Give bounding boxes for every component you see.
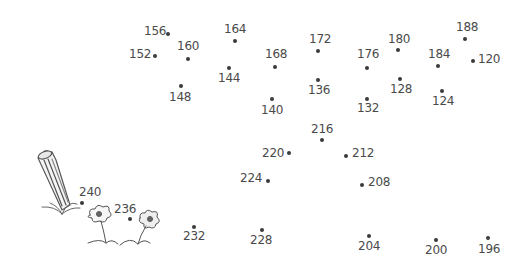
dot-label: 208 [368, 176, 390, 188]
dot-label: 240 [79, 186, 101, 198]
dot-to-dot-canvas: 1201241281321361401441481521561601641681… [0, 0, 529, 267]
dot-label: 220 [262, 147, 284, 159]
dot-point-220[interactable] [287, 151, 291, 155]
dot-label: 212 [352, 147, 374, 159]
dot-label: 188 [456, 21, 478, 33]
dot-label: 228 [250, 234, 272, 246]
dot-label: 140 [261, 104, 283, 116]
dot-label: 160 [177, 40, 199, 52]
dot-label: 204 [358, 240, 380, 252]
dot-label: 164 [224, 23, 246, 35]
dot-point-196[interactable] [486, 236, 490, 240]
dot-label: 120 [478, 53, 500, 65]
dot-point-136[interactable] [316, 78, 320, 82]
dot-point-120[interactable] [471, 59, 475, 63]
dot-point-180[interactable] [396, 48, 400, 52]
dot-label: 180 [388, 33, 410, 45]
dot-label: 136 [308, 84, 330, 96]
dot-point-208[interactable] [360, 183, 364, 187]
dot-point-164[interactable] [233, 39, 237, 43]
dot-point-184[interactable] [436, 64, 440, 68]
dot-point-160[interactable] [186, 57, 190, 61]
dot-point-152[interactable] [153, 54, 157, 58]
dot-point-212[interactable] [344, 154, 348, 158]
dot-point-176[interactable] [365, 66, 369, 70]
dot-label: 152 [129, 48, 151, 60]
dot-label: 128 [390, 83, 412, 95]
dot-label: 196 [478, 243, 500, 255]
dot-label: 224 [240, 172, 262, 184]
dot-point-236[interactable] [128, 217, 132, 221]
wooden-post-icon [37, 149, 70, 210]
dot-label: 124 [432, 95, 454, 107]
dot-point-216[interactable] [320, 138, 324, 142]
dot-point-228[interactable] [260, 228, 264, 232]
dot-label: 132 [357, 102, 379, 114]
dot-label: 144 [218, 72, 240, 84]
post-and-flowers-sketch [0, 0, 529, 267]
dot-label: 156 [144, 25, 166, 37]
dot-label: 168 [265, 48, 287, 60]
dot-label: 236 [114, 203, 136, 215]
dot-label: 172 [309, 33, 331, 45]
dot-point-172[interactable] [316, 49, 320, 53]
dot-point-240[interactable] [80, 201, 84, 205]
dot-label: 232 [183, 230, 205, 242]
dot-point-148[interactable] [179, 84, 183, 88]
dot-label: 184 [428, 48, 450, 60]
dot-point-124[interactable] [440, 89, 444, 93]
dot-point-204[interactable] [367, 234, 371, 238]
dot-point-144[interactable] [227, 66, 231, 70]
dot-label: 148 [169, 91, 191, 103]
dot-label: 176 [357, 48, 379, 60]
dot-point-188[interactable] [463, 37, 467, 41]
dot-point-200[interactable] [434, 238, 438, 242]
dot-label: 216 [311, 123, 333, 135]
dot-point-156[interactable] [166, 32, 170, 36]
dot-point-128[interactable] [398, 77, 402, 81]
dot-label: 200 [425, 244, 447, 256]
dot-point-140[interactable] [270, 97, 274, 101]
dot-point-224[interactable] [266, 179, 270, 183]
dot-point-168[interactable] [273, 65, 277, 69]
